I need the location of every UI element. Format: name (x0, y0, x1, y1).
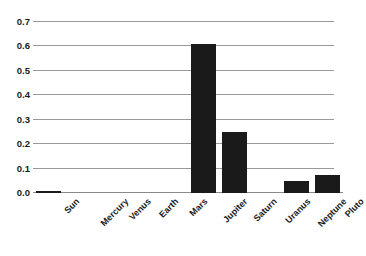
y-axis-tick-label: 0.0 (2, 188, 30, 198)
bar-slot (188, 22, 219, 193)
y-axis-tick-label: 0.5 (2, 66, 30, 76)
x-axis-tick-label: Earth (158, 197, 181, 220)
y-axis: 0.00.10.20.30.40.50.60.7 (0, 18, 30, 197)
bar (36, 191, 61, 193)
y-axis-tick-label: 0.2 (2, 139, 30, 149)
plot-area (33, 18, 343, 197)
y-axis-tick-label: 0.3 (2, 115, 30, 125)
x-axis: SunMercuryVenusEarthMarsJupiterSaturnUra… (33, 197, 343, 256)
y-axis-tick-label: 0.4 (2, 91, 30, 101)
x-axis-tick-label: Venus (128, 197, 153, 222)
bar-slot (126, 22, 157, 193)
x-axis-tick-label: Pluto (343, 197, 365, 219)
bar (284, 181, 309, 193)
x-axis-tick-label: Sun (63, 197, 81, 215)
x-axis-tick-label: Mars (188, 197, 209, 218)
bar (315, 175, 340, 193)
bar-slot (312, 22, 343, 193)
bar-slot (95, 22, 126, 193)
bar (191, 44, 216, 193)
x-axis-tick-label: Uranus (284, 197, 312, 225)
bar (222, 132, 247, 193)
bar-slot (250, 22, 281, 193)
bars (33, 18, 343, 197)
bar-slot (64, 22, 95, 193)
x-axis-tick-label: Mercury (99, 197, 130, 228)
bar-slot (281, 22, 312, 193)
y-axis-tick-label: 0.6 (2, 42, 30, 52)
bar-slot (219, 22, 250, 193)
x-axis-tick-label: Jupiter (222, 197, 250, 225)
bar-slot (157, 22, 188, 193)
y-axis-tick-label: 0.1 (2, 164, 30, 174)
y-axis-tick-label: 0.7 (2, 17, 30, 27)
x-axis-tick-label: Saturn (252, 197, 279, 224)
bar-slot (33, 22, 64, 193)
